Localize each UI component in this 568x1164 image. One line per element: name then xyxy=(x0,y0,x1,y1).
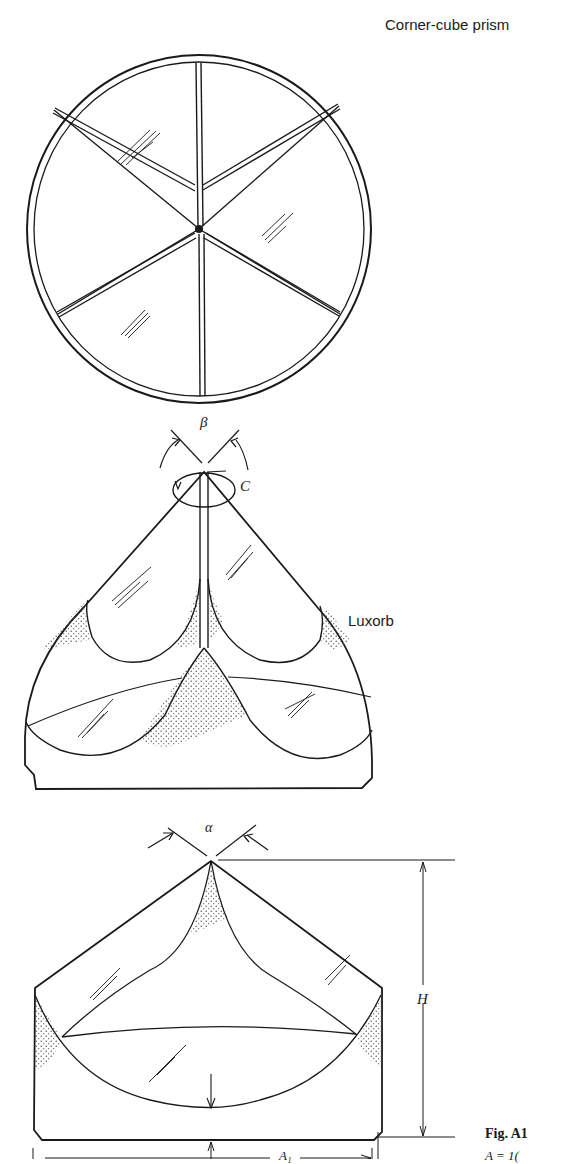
side-view xyxy=(33,825,455,1159)
rotation-c-label: C xyxy=(240,478,250,495)
perspective-view xyxy=(25,430,372,789)
figure-caption-text: A = 1( xyxy=(485,1148,519,1164)
width-a1-label: A₁ xyxy=(279,1148,291,1164)
luxorb-label: Luxorb xyxy=(348,612,394,629)
alpha-angle-label: α xyxy=(205,820,212,836)
beta-angle-label: β xyxy=(200,414,207,431)
height-h-label: H xyxy=(417,991,428,1008)
figure-title: Corner-cube prism xyxy=(385,16,509,33)
top-view-circle xyxy=(27,55,371,403)
figure-caption-label: Fig. A1 xyxy=(485,1126,528,1142)
